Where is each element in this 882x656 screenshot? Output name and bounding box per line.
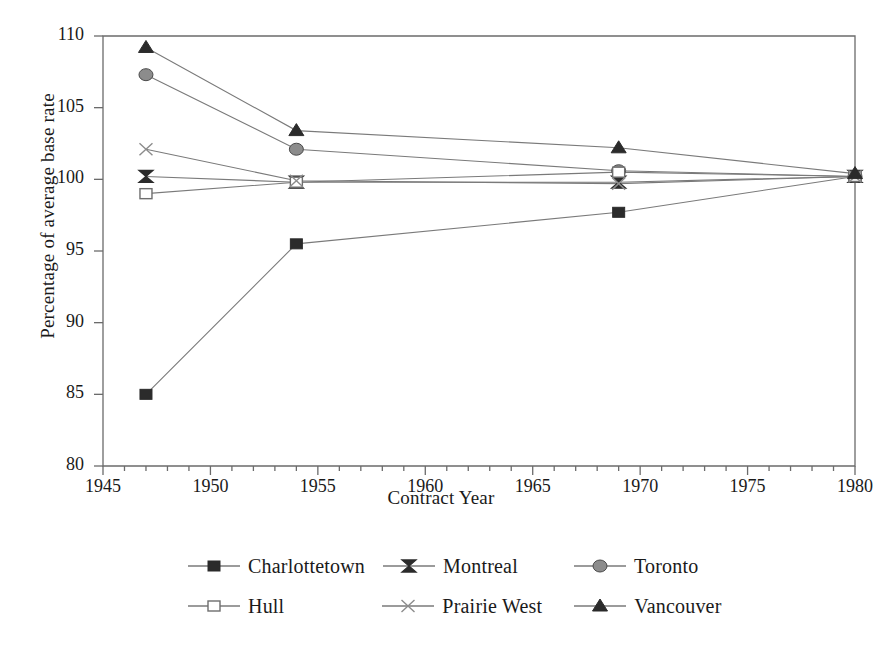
legend-item-prairie-west[interactable]: Prairie West bbox=[380, 595, 542, 618]
x-tick-label: 1970 bbox=[600, 476, 680, 497]
y-tick-label: 90 bbox=[18, 311, 84, 332]
y-tick-label: 80 bbox=[18, 454, 84, 475]
y-tick-label: 110 bbox=[18, 24, 84, 45]
legend-label: Toronto bbox=[628, 555, 698, 578]
legend-item-montreal[interactable]: Montreal bbox=[381, 555, 518, 578]
x-tick-label: 1980 bbox=[815, 476, 882, 497]
y-tick-label: 85 bbox=[18, 382, 84, 403]
filled-circle-icon bbox=[572, 556, 628, 576]
cross-x-icon bbox=[380, 596, 436, 616]
legend-item-toronto[interactable]: Toronto bbox=[572, 555, 698, 578]
chart-legend: CharlottetownMontrealTorontoHullPrairie … bbox=[0, 546, 882, 626]
x-tick-label: 1955 bbox=[278, 476, 358, 497]
x-tick-label: 1950 bbox=[170, 476, 250, 497]
x-tick-label: 1975 bbox=[708, 476, 788, 497]
legend-row: HullPrairie WestVancouver bbox=[0, 586, 882, 626]
x-tick-label: 1960 bbox=[385, 476, 465, 497]
legend-item-vancouver[interactable]: Vancouver bbox=[572, 595, 721, 618]
y-tick-label: 100 bbox=[18, 167, 84, 188]
y-tick-label: 105 bbox=[18, 96, 84, 117]
chart-figure: Percentage of average base rate Contract… bbox=[0, 0, 882, 656]
x-tick-label: 1945 bbox=[63, 476, 143, 497]
bowtie-icon bbox=[381, 556, 437, 576]
filled-triangle-icon bbox=[572, 596, 628, 616]
filled-square-icon bbox=[186, 556, 242, 576]
open-square-icon bbox=[186, 596, 242, 616]
plot-area bbox=[0, 0, 882, 520]
legend-label: Montreal bbox=[437, 555, 518, 578]
legend-item-charlottetown[interactable]: Charlottetown bbox=[186, 555, 365, 578]
legend-label: Vancouver bbox=[628, 595, 721, 618]
legend-label: Prairie West bbox=[436, 595, 542, 618]
y-tick-label: 95 bbox=[18, 239, 84, 260]
legend-item-hull[interactable]: Hull bbox=[186, 595, 284, 618]
legend-row: CharlottetownMontrealToronto bbox=[0, 546, 882, 586]
legend-label: Charlottetown bbox=[242, 555, 365, 578]
x-tick-label: 1965 bbox=[493, 476, 573, 497]
legend-label: Hull bbox=[242, 595, 284, 618]
